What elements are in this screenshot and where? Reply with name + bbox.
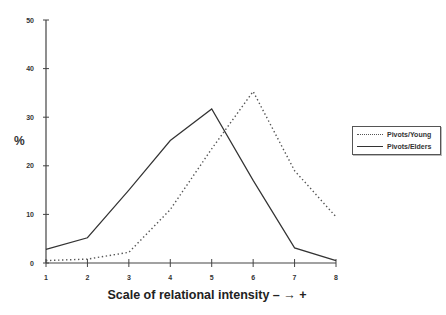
x-axis-label: Scale of relational intensity – → + (107, 288, 306, 302)
x-tick-label: 5 (210, 274, 214, 281)
legend-label: Pivots/Young (387, 131, 431, 138)
x-tick-label: 3 (127, 274, 131, 281)
series-lines (46, 91, 336, 260)
y-tick-label: 20 (26, 162, 34, 169)
legend-item-elders: Pivots/Elders (357, 141, 431, 152)
x-tick-label: 1 (44, 274, 48, 281)
series-pivots-elders (46, 109, 336, 261)
x-tick-label: 6 (251, 274, 255, 281)
legend: Pivots/Young Pivots/Elders (352, 126, 441, 155)
legend-item-young: Pivots/Young (357, 129, 431, 140)
dotted-line-swatch-icon (357, 134, 383, 135)
line-chart: 0102030405012345678 % Scale of relationa… (0, 0, 446, 315)
y-axis-label: % (14, 134, 25, 148)
x-tick-label: 2 (85, 274, 89, 281)
x-tick-label: 8 (334, 274, 338, 281)
y-tick-label: 10 (26, 211, 34, 218)
y-tick-label: 0 (30, 260, 34, 267)
y-tick-label: 40 (26, 65, 34, 72)
y-tick-label: 30 (26, 114, 34, 121)
x-tick-label: 4 (168, 274, 172, 281)
y-tick-label: 50 (26, 17, 34, 24)
solid-line-swatch-icon (357, 146, 383, 147)
x-tick-label: 7 (293, 274, 297, 281)
legend-label: Pivots/Elders (387, 143, 431, 150)
